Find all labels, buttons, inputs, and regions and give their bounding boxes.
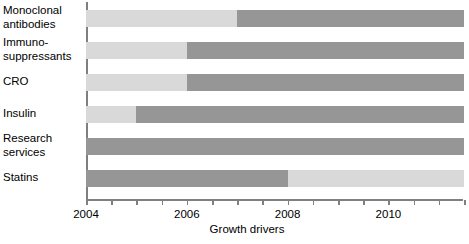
x-axis-tick (237, 200, 239, 205)
category-label: Insulin (3, 107, 84, 121)
x-axis-tick-label: 2008 (275, 207, 301, 221)
plot-area: 2004200620082010Growth drivers (86, 0, 464, 200)
x-axis-tick (338, 200, 340, 205)
bar-segment-dark (237, 10, 464, 27)
x-axis-tick (212, 200, 214, 205)
x-axis-tick-label: 2004 (73, 207, 99, 221)
x-axis-line (86, 199, 463, 201)
x-axis-tick (86, 200, 88, 205)
bar-segment-dark (86, 138, 464, 155)
bar-statins (86, 170, 464, 187)
x-axis-tick (162, 200, 164, 205)
category-label: Statins (3, 171, 84, 185)
bar-segment-dark (187, 74, 464, 91)
category-label: Monoclonal antibodies (3, 4, 84, 31)
category-label: CRO (3, 75, 84, 89)
x-axis-tick-label: 2010 (376, 207, 402, 221)
category-label: Immuno- suppressants (3, 36, 84, 63)
bar-insulin (86, 106, 464, 123)
x-axis-tick (414, 200, 416, 205)
x-axis-tick (388, 200, 390, 205)
bar-monoclonal-antibodies (86, 10, 464, 27)
x-axis-title: Growth drivers (210, 222, 285, 236)
category-label: Research services (3, 132, 84, 159)
x-axis-tick (111, 200, 113, 205)
bar-segment-dark (136, 106, 464, 123)
x-axis-tick (288, 200, 290, 205)
bar-segment-light (86, 106, 136, 123)
bar-immuno-suppressants (86, 42, 464, 59)
growth-drivers-bar-chart: Monoclonal antibodiesImmuno- suppressant… (0, 0, 469, 244)
x-axis-tick (136, 200, 138, 205)
bar-cro (86, 74, 464, 91)
x-axis-tick (464, 200, 466, 205)
bar-research-services (86, 138, 464, 155)
x-axis-tick (262, 200, 264, 205)
bar-segment-dark (86, 170, 288, 187)
x-axis-tick-label: 2006 (174, 207, 200, 221)
category-label-column: Monoclonal antibodiesImmuno- suppressant… (0, 0, 84, 200)
bar-segment-light (288, 170, 464, 187)
x-axis-tick (363, 200, 365, 205)
bar-segment-dark (187, 42, 464, 59)
x-axis-tick (187, 200, 189, 205)
bar-segment-light (86, 10, 237, 27)
x-axis-tick (313, 200, 315, 205)
x-axis-tick (439, 200, 441, 205)
bar-segment-light (86, 74, 187, 91)
bar-segment-light (86, 42, 187, 59)
